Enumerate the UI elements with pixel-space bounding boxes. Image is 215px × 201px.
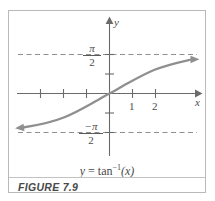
y-axis-label: y <box>114 17 119 28</box>
x-tick-label-2: 2 <box>152 101 158 112</box>
curve-right-arrowhead <box>191 56 200 63</box>
fraction-denominator-upper: 2 <box>83 57 101 68</box>
equation-argument: (x) <box>121 164 134 178</box>
fraction-denominator-lower: 2 <box>79 135 103 146</box>
fraction-numerator-upper: π <box>83 43 101 54</box>
x-axis-label: x <box>195 97 200 108</box>
fraction-sign-lower: − <box>85 120 92 132</box>
fraction-numerator-lower: −π <box>79 121 103 132</box>
y-tick-label-neg-pi-over-2: −π 2 <box>79 121 103 146</box>
equation-exponent: −1 <box>112 163 121 172</box>
plot-area: y x 1 2 π 2 −π 2 <box>9 11 205 171</box>
plot-svg <box>9 11 205 171</box>
figure-card: y x 1 2 π 2 −π 2 y = tan−1(x) FIGURE 7.9 <box>8 10 206 193</box>
y-axis-arrowhead <box>106 17 114 25</box>
curve-left-arrowhead <box>15 124 25 132</box>
figure-caption: FIGURE 7.9 <box>18 181 78 193</box>
y-tick-label-pi-over-2: π 2 <box>83 43 101 68</box>
equation-function: tan <box>98 164 113 178</box>
equation-lhs: y <box>80 164 85 178</box>
fraction-pi-lower: π <box>92 120 98 132</box>
x-tick-label-1: 1 <box>129 101 135 112</box>
caption-divider <box>9 177 205 178</box>
equation-equals: = <box>88 164 95 178</box>
